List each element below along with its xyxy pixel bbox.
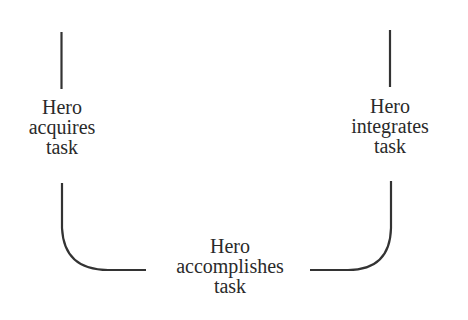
node-line: Hero [12, 97, 112, 117]
hero-task-diagram: Hero acquires task Hero accomplishes tas… [0, 0, 468, 320]
node-line: Hero [152, 236, 308, 256]
node-line: integrates [338, 116, 442, 136]
connector-accomplishes-to-integrates [310, 181, 391, 270]
node-line: task [12, 137, 112, 157]
node-hero-accomplishes-task: Hero accomplishes task [152, 236, 308, 296]
node-hero-integrates-task: Hero integrates task [338, 96, 442, 156]
connector-acquires-to-accomplishes [62, 183, 146, 270]
node-line: task [152, 276, 308, 296]
node-line: acquires [12, 117, 112, 137]
node-hero-acquires-task: Hero acquires task [12, 97, 112, 157]
node-line: accomplishes [152, 256, 308, 276]
node-line: task [338, 136, 442, 156]
node-line: Hero [338, 96, 442, 116]
